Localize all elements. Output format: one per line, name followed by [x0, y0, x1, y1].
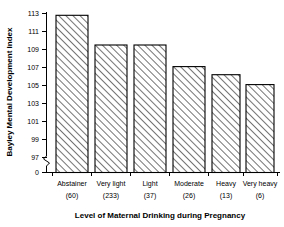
x-category-count-light: (37) [144, 192, 156, 200]
y-tick-label-zero: 0 [35, 169, 39, 176]
y-axis-tick-labels: 113 111 109 107 105 103 101 99 97 0 [27, 10, 39, 176]
x-axis-title: Level of Maternal Drinking during Pregna… [75, 211, 246, 220]
y-tick-label-111: 111 [28, 28, 39, 35]
x-category-label-very-light: Very light [97, 180, 126, 188]
x-category-count-very-light: (233) [103, 192, 119, 200]
x-axis-category-labels: Abstainer Very light Light Moderate Heav… [57, 180, 278, 188]
bar-very-light[interactable] [95, 45, 127, 173]
x-category-label-light: Light [142, 180, 157, 188]
bar-chart: 113 111 109 107 105 103 101 99 97 0 [0, 0, 284, 227]
y-tick-label-99: 99 [31, 136, 39, 143]
chart-container: 113 111 109 107 105 103 101 99 97 0 [0, 0, 284, 227]
y-tick-label-105: 105 [27, 82, 39, 89]
y-tick-label-107: 107 [27, 64, 39, 71]
x-category-label-moderate: Moderate [174, 180, 204, 187]
x-category-label-very-heavy: Very heavy [243, 180, 278, 188]
y-tick-label-109: 109 [27, 46, 39, 53]
bar-light[interactable] [134, 45, 166, 173]
bar-heavy[interactable] [212, 75, 240, 173]
bar-moderate[interactable] [173, 67, 205, 173]
x-category-count-very-heavy: (6) [256, 192, 265, 200]
y-axis-ticks [42, 14, 47, 173]
x-axis [47, 173, 281, 177]
y-tick-label-103: 103 [27, 100, 39, 107]
x-category-label-abstainer: Abstainer [57, 180, 87, 187]
x-category-count-heavy: (13) [220, 192, 232, 200]
x-category-label-heavy: Heavy [216, 180, 236, 188]
y-axis-title: Bayley Mental Development Index [5, 27, 14, 156]
y-axis [44, 12, 50, 173]
bar-very-heavy[interactable] [246, 85, 274, 173]
y-tick-label-113: 113 [28, 10, 39, 17]
x-category-count-abstainer: (60) [66, 192, 78, 200]
y-tick-label-101: 101 [27, 118, 39, 125]
y-tick-label-97: 97 [31, 154, 39, 161]
x-category-count-moderate: (26) [183, 192, 195, 200]
x-axis-category-counts: (60) (233) (37) (26) (13) (6) [66, 192, 265, 200]
bars-group [56, 15, 274, 172]
bar-abstainer[interactable] [56, 15, 88, 172]
